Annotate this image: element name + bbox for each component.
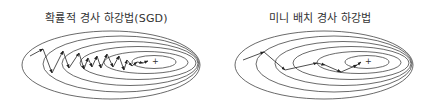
- contour-ellipse: [275, 42, 411, 86]
- descent-step-arrow: [52, 51, 63, 73]
- descent-step-arrow: [30, 49, 43, 56]
- contour-ellipse: [43, 36, 199, 92]
- descent-step-arrow: [84, 58, 88, 69]
- contour-ellipse: [104, 52, 188, 74]
- descent-step-arrow: [357, 62, 361, 65]
- descent-step-arrow: [113, 56, 119, 67]
- minimum-plus-icon: +: [365, 57, 372, 66]
- contour-ellipse: [317, 52, 401, 74]
- minimum-plus-icon: +: [152, 57, 159, 66]
- descent-step-arrow: [285, 63, 317, 70]
- descent-step-arrow: [243, 52, 264, 60]
- descent-step-arrow: [127, 60, 132, 66]
- descent-step-arrow: [69, 53, 79, 68]
- descent-step-arrow: [124, 60, 127, 70]
- descent-step-arrow: [137, 62, 143, 63]
- sgd-panel: 확률적 경사 하강법(SGD) +: [0, 0, 213, 106]
- descent-step-arrow: [119, 56, 124, 70]
- contour-ellipse: [256, 36, 412, 92]
- mini-batch-panel: 미니 배치 경사 하강법 +: [213, 0, 427, 106]
- mini-batch-contour-diagram: +: [213, 0, 427, 106]
- descent-step-arrow: [97, 56, 101, 68]
- descent-step-arrow: [63, 51, 69, 68]
- descent-step-arrow: [88, 58, 92, 67]
- sgd-contour-diagram: +: [0, 0, 213, 106]
- descent-step-arrow: [92, 56, 97, 67]
- descent-step-arrow: [143, 61, 148, 63]
- descent-step-arrow: [264, 52, 285, 70]
